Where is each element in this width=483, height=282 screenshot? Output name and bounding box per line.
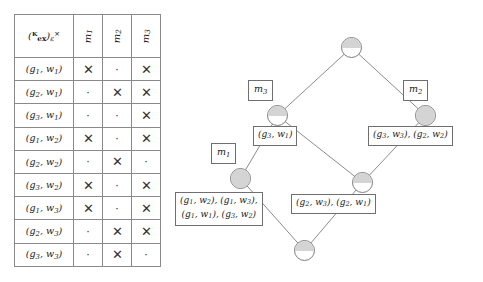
dot-icon: · (86, 110, 90, 121)
node-fill (268, 106, 287, 116)
lattice-node-right1[interactable] (415, 105, 436, 126)
node-fill (342, 38, 361, 48)
table-row: (g2, w3)·✕✕ (15, 220, 161, 243)
formal-context-table: (ᴷex)ε× m1 m2 m3 (g1, w1)✕·✕(g2, w1)·✕✕(… (14, 14, 161, 267)
node-fill (416, 106, 435, 125)
cross-icon: ✕ (83, 202, 94, 215)
table-row: (g1, w1)✕·✕ (15, 58, 161, 81)
cross-icon: ✕ (83, 179, 94, 192)
incidence-cross-cell: ✕ (132, 104, 161, 127)
row-header-cell: (g1, w3) (15, 197, 74, 220)
column-header-m1: m1 (74, 15, 103, 58)
dot-icon: · (115, 110, 119, 121)
node-fill (231, 169, 250, 188)
concept-lattice-diagram: m3m2m1(g3, w1)(g3, w3), (g2, w2)(g1, w2)… (175, 0, 483, 282)
incidence-cross-cell: ✕ (132, 127, 161, 150)
column-header-m2: m2 (103, 15, 132, 58)
lattice-node-bottom[interactable] (294, 240, 315, 261)
corner-formula: (ᴷex)ε× (28, 30, 60, 41)
cross-icon: ✕ (83, 63, 94, 76)
row-header-cell: (g3, w2) (15, 173, 74, 196)
dot-icon: · (86, 249, 90, 260)
incidence-dot-cell: · (103, 127, 132, 150)
dot-icon: · (86, 87, 90, 98)
cross-icon: ✕ (141, 225, 152, 238)
lattice-node-right2[interactable] (352, 172, 373, 193)
node-fill (353, 173, 372, 183)
dot-icon: · (86, 156, 90, 167)
incidence-dot-cell: · (74, 220, 103, 243)
row-header-cell: (g3, w3) (15, 243, 74, 266)
incidence-dot-cell: · (103, 58, 132, 81)
column-header-m3-label: m3 (140, 29, 153, 43)
attribute-label-m3: m3 (248, 80, 273, 101)
incidence-dot-cell: · (74, 81, 103, 104)
incidence-cross-cell: ✕ (74, 173, 103, 196)
table-row: (g1, w3)✕·✕ (15, 197, 161, 220)
lattice-edge (278, 48, 352, 116)
incidence-dot-cell: · (103, 173, 132, 196)
row-header-cell: (g2, w2) (15, 150, 74, 173)
table-header: (ᴷex)ε× m1 m2 m3 (15, 15, 161, 58)
table-row: (g3, w3)·✕· (15, 243, 161, 266)
dot-icon: · (115, 133, 119, 144)
incidence-cross-cell: ✕ (103, 81, 132, 104)
table-corner-cell: (ᴷex)ε× (15, 15, 74, 58)
incidence-dot-cell: · (103, 197, 132, 220)
cross-icon: ✕ (141, 202, 152, 215)
object-label-lbl-g1w2-g1w3-g1w1-g3w2: (g1, w2), (g1, w3),(g1, w1), (g3, w2) (175, 192, 263, 226)
incidence-cross-cell: ✕ (132, 81, 161, 104)
incidence-cross-cell: ✕ (103, 243, 132, 266)
table-row: (g3, w1)··✕ (15, 104, 161, 127)
incidence-cross-cell: ✕ (103, 150, 132, 173)
dot-icon: · (144, 249, 148, 260)
object-label-lbl-g2w3-g2w1: (g2, w3), (g2, w1) (291, 194, 376, 214)
incidence-cross-cell: ✕ (74, 127, 103, 150)
incidence-cross-cell: ✕ (103, 220, 132, 243)
incidence-dot-cell: · (74, 150, 103, 173)
incidence-dot-cell: · (74, 243, 103, 266)
table-body: (g1, w1)✕·✕(g2, w1)·✕✕(g3, w1)··✕(g1, w2… (15, 58, 161, 267)
object-label-lbl-g3w1: (g3, w1) (253, 126, 297, 146)
row-header-cell: (g1, w1) (15, 58, 74, 81)
cross-icon: ✕ (141, 86, 152, 99)
cross-icon: ✕ (141, 109, 152, 122)
node-fill (295, 241, 314, 251)
row-header-cell: (g2, w3) (15, 220, 74, 243)
incidence-cross-cell: ✕ (74, 197, 103, 220)
incidence-cross-cell: ✕ (132, 197, 161, 220)
lattice-node-top[interactable] (341, 37, 362, 58)
incidence-dot-cell: · (132, 243, 161, 266)
incidence-cross-cell: ✕ (132, 58, 161, 81)
cross-icon: ✕ (83, 132, 94, 145)
table-row: (g1, w2)✕·✕ (15, 127, 161, 150)
lattice-node-left1[interactable] (267, 105, 288, 126)
column-header-m3: m3 (132, 15, 161, 58)
row-header-cell: (g2, w1) (15, 81, 74, 104)
cross-icon: ✕ (141, 63, 152, 76)
incidence-dot-cell: · (103, 104, 132, 127)
cross-icon: ✕ (141, 132, 152, 145)
dot-icon: · (115, 180, 119, 191)
cross-icon: ✕ (141, 179, 152, 192)
incidence-cross-cell: ✕ (132, 220, 161, 243)
figure-root: (ᴷex)ε× m1 m2 m3 (g1, w1)✕·✕(g2, w1)·✕✕(… (0, 0, 483, 282)
row-header-cell: (g3, w1) (15, 104, 74, 127)
column-header-m1-label: m1 (82, 29, 95, 43)
dot-icon: · (86, 226, 90, 237)
cross-icon: ✕ (112, 248, 123, 261)
dot-icon: · (144, 156, 148, 167)
column-header-m2-label: m2 (111, 29, 124, 43)
attribute-label-m1: m1 (211, 143, 236, 164)
table-row: (g2, w1)·✕✕ (15, 81, 161, 104)
table-row: (g2, w2)·✕· (15, 150, 161, 173)
table-header-row: (ᴷex)ε× m1 m2 m3 (15, 15, 161, 58)
cross-icon: ✕ (112, 225, 123, 238)
attribute-label-m2: m2 (403, 80, 428, 101)
table-row: (g3, w2)✕·✕ (15, 173, 161, 196)
incidence-dot-cell: · (132, 150, 161, 173)
incidence-dot-cell: · (74, 104, 103, 127)
lattice-node-left2[interactable] (230, 168, 251, 189)
dot-icon: · (115, 203, 119, 214)
cross-icon: ✕ (112, 155, 123, 168)
